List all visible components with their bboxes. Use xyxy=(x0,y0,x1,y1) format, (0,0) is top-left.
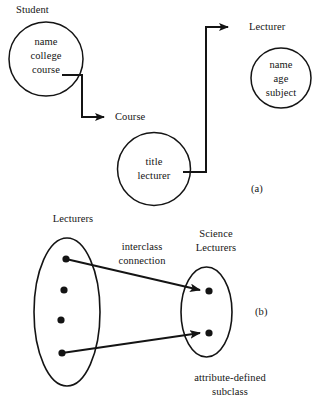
interclass-connection-label-line1: interclass xyxy=(122,240,163,254)
science-lecturers-member-dot xyxy=(205,329,212,336)
part-b-tag: (b) xyxy=(255,305,268,319)
student-entity-label: Student xyxy=(16,3,49,17)
lecturers-member-dot xyxy=(60,286,67,293)
part-a-tag: (a) xyxy=(251,182,263,196)
student-attribute-college: college xyxy=(30,49,61,63)
course-attribute-lecturer: lecturer xyxy=(138,169,171,183)
student-attribute-course: course xyxy=(32,63,60,77)
lecturer-attribute-name: name xyxy=(269,58,292,72)
lecturer-attribute-subject: subject xyxy=(266,86,296,100)
figure-canvas: Student name college course Course title… xyxy=(0,0,328,401)
attribute-defined-subclass-caption-line2: subclass xyxy=(212,385,248,399)
science-lecturers-member-dot xyxy=(205,287,212,294)
student-attribute-name: name xyxy=(34,35,57,49)
course-to-lecturer-arrow xyxy=(183,27,228,172)
science-lecturers-set-ellipse xyxy=(181,267,232,357)
mapping-bottom-arrow xyxy=(62,333,200,353)
student-to-course-arrow xyxy=(62,75,104,117)
course-entity-label: Course xyxy=(115,110,145,124)
lecturers-set-label: Lecturers xyxy=(53,212,94,226)
science-lecturers-set-label-line2: Lecturers xyxy=(196,241,237,255)
interclass-connection-label-line2: connection xyxy=(118,254,165,268)
lecturer-entity-label: Lecturer xyxy=(249,20,285,34)
lecturer-attribute-age: age xyxy=(274,72,289,86)
science-lecturers-set-label-line1: Science xyxy=(199,227,232,241)
lecturers-member-dot xyxy=(57,316,64,323)
course-attribute-title: title xyxy=(146,155,163,169)
attribute-defined-subclass-caption-line1: attribute-defined xyxy=(194,371,266,385)
